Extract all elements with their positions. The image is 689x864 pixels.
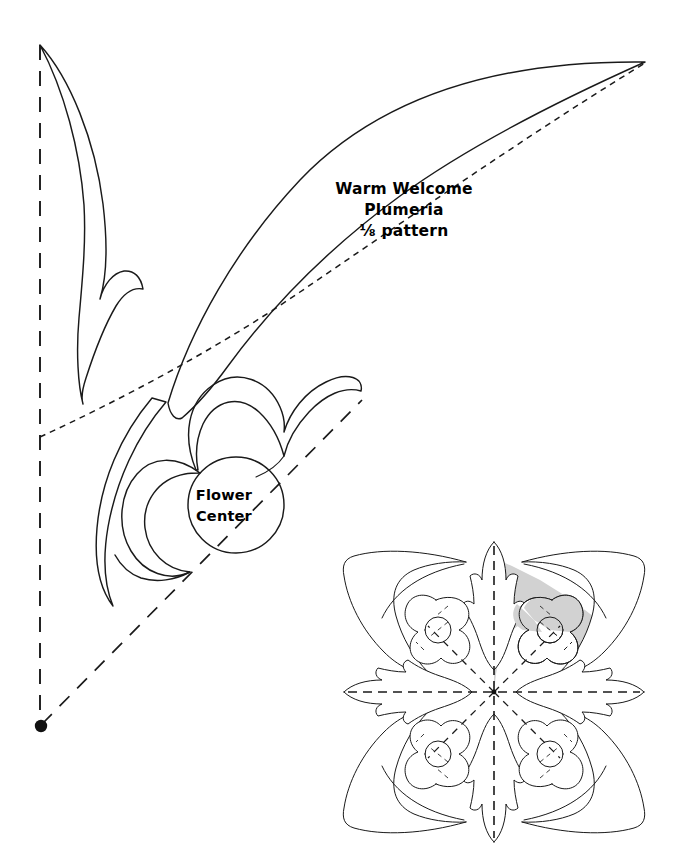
upper-frond-outline [40, 45, 143, 404]
mini-design-preview [343, 542, 644, 842]
pattern-sheet-page: Warm Welcome Plumeria ⅛ pattern Flower C… [0, 0, 689, 864]
fold-pivot-dot [35, 720, 47, 732]
petal-center-connector [256, 456, 284, 477]
mini-flower-nw [405, 595, 470, 664]
leaf-outline [168, 62, 645, 419]
diagonal-fold-line [42, 400, 362, 724]
left-petal-tail [115, 555, 190, 580]
pattern-title-line-3: ⅛ pattern [360, 222, 449, 240]
flower-center-label-line-1: Flower [196, 487, 253, 503]
stem-outline [96, 398, 166, 606]
flower-center-label-line-2: Center [196, 508, 253, 524]
leaf-center-vein [40, 63, 645, 437]
pattern-title-line-2: Plumeria [364, 201, 443, 219]
mini-flower-se [518, 720, 583, 789]
upper-petals-outline [189, 377, 362, 470]
pattern-title-line-1: Warm Welcome [335, 180, 472, 198]
pattern-sheet-canvas: Warm Welcome Plumeria ⅛ pattern Flower C… [0, 0, 689, 864]
mini-flower-sw [405, 720, 470, 789]
mini-center-point [492, 690, 497, 695]
flower-center-circle [188, 457, 284, 553]
left-petal-outline [122, 460, 200, 576]
